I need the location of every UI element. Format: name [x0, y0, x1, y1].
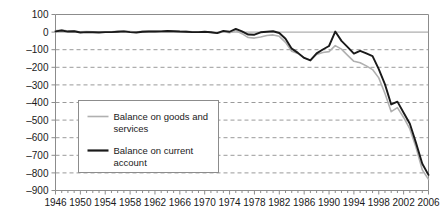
- x-tick-label: 1974: [218, 197, 241, 208]
- y-tick-label: –900: [26, 185, 49, 196]
- x-tick-label: 1978: [243, 197, 266, 208]
- legend-label: Balance on goods and: [114, 111, 209, 122]
- y-tick-label: –200: [26, 62, 49, 73]
- x-axis-ticks: [56, 191, 429, 195]
- chart-legend: Balance on goods andservicesBalance on c…: [79, 101, 219, 173]
- y-tick-label: –500: [26, 115, 49, 126]
- y-tick-label: –100: [26, 44, 49, 55]
- legend-label-continued: account: [114, 157, 148, 168]
- x-tick-label: 1954: [94, 197, 117, 208]
- x-tick-label: 1986: [293, 197, 316, 208]
- x-axis-tick-labels: 1946195019541958196219661970197419781982…: [44, 197, 440, 208]
- chart-container: 1000–100–200–300–400–500–600–700–800–900…: [0, 0, 448, 218]
- y-tick-label: –600: [26, 132, 49, 143]
- x-tick-label: 1962: [144, 197, 167, 208]
- x-tick-label: 1990: [318, 197, 341, 208]
- y-tick-label: 0: [43, 27, 49, 38]
- x-tick-label: 1998: [368, 197, 391, 208]
- x-tick-label: 1958: [119, 197, 142, 208]
- x-tick-label: 1966: [169, 197, 192, 208]
- legend-label-continued: services: [114, 123, 149, 134]
- x-tick-label: 1950: [69, 197, 92, 208]
- y-tick-label: –800: [26, 168, 49, 179]
- y-tick-label: –700: [26, 150, 49, 161]
- legend-label: Balance on current: [114, 145, 194, 156]
- x-tick-label: 1970: [194, 197, 217, 208]
- x-tick-label: 2006: [417, 197, 440, 208]
- y-tick-label: –300: [26, 80, 49, 91]
- x-tick-label: 1994: [343, 197, 366, 208]
- line-chart: 1000–100–200–300–400–500–600–700–800–900…: [0, 0, 448, 218]
- y-tick-label: 100: [32, 9, 49, 20]
- x-tick-label: 2002: [393, 197, 416, 208]
- y-axis-tick-labels: 1000–100–200–300–400–500–600–700–800–900: [26, 9, 49, 196]
- x-tick-label: 1946: [44, 197, 67, 208]
- y-tick-label: –400: [26, 97, 49, 108]
- y-axis-ticks: [52, 15, 56, 191]
- x-tick-label: 1982: [268, 197, 291, 208]
